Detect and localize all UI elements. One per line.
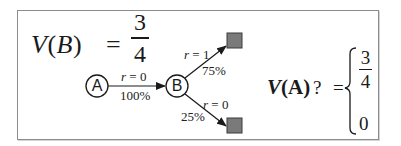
diagram-canvas: V(B) = 3 4 A B r = 0 100% r = 1 75% r = … [0,0,401,146]
value-a-option-2: 0 [359,114,369,133]
value-a-option-1-bar [359,69,372,70]
cases-brace-layer [0,0,401,146]
cases-brace [345,48,356,134]
value-a-option-fraction: 3 4 [359,48,372,91]
value-a-option-1-numerator: 3 [359,48,372,67]
value-a-option-1-denominator: 4 [359,72,372,91]
